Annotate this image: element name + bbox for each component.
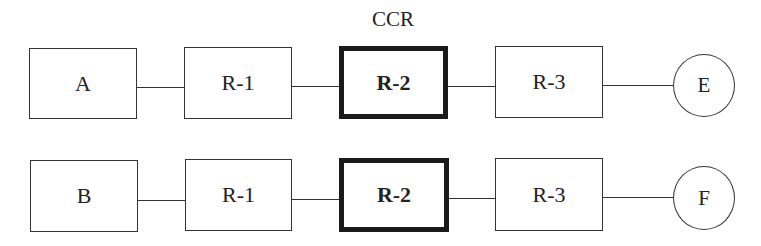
- connector-line: [603, 85, 673, 86]
- end-node-e: E: [673, 54, 735, 117]
- ccr-label: CCR: [363, 7, 423, 32]
- source-node-b: B: [30, 160, 138, 232]
- resource-node-r2-critical: R-2: [339, 158, 449, 232]
- connector-line: [138, 200, 185, 201]
- resource-node-r1: R-1: [184, 47, 292, 119]
- connector-line: [292, 199, 339, 200]
- connector-line: [137, 87, 184, 88]
- source-node-a: A: [29, 48, 137, 119]
- connector-line: [448, 86, 495, 87]
- resource-node-r3: R-3: [495, 46, 603, 118]
- connector-line: [292, 86, 339, 87]
- connector-line: [449, 198, 495, 199]
- resource-node-r2-critical: R-2: [339, 46, 448, 119]
- resource-node-r1: R-1: [185, 159, 292, 231]
- resource-node-r3: R-3: [495, 158, 603, 231]
- end-node-f: F: [673, 166, 735, 230]
- connector-line: [603, 197, 673, 198]
